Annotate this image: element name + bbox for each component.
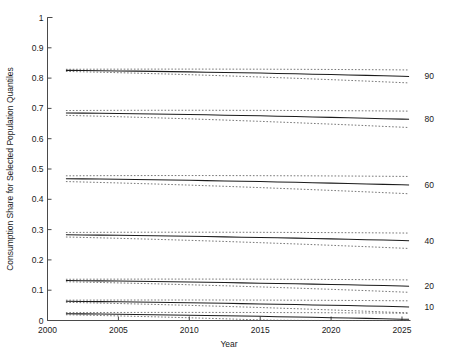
x-tick-label-2: 2010 <box>180 325 199 335</box>
series-20-line <box>66 281 409 287</box>
chart-canvas: 00.10.20.30.40.50.60.70.80.9120002005201… <box>0 0 452 362</box>
series-5-upper-band <box>66 312 409 313</box>
series-40-line <box>66 235 409 241</box>
x-tick-label-3: 2015 <box>251 325 270 335</box>
x-tick-label-0: 2000 <box>38 325 57 335</box>
series-end-label-60: 60 <box>425 180 435 190</box>
x-axis-title: Year <box>220 339 237 349</box>
series-end-label-80: 80 <box>425 114 435 124</box>
series-60-line <box>66 179 409 185</box>
series-5-line <box>66 314 409 320</box>
series-90-line <box>66 70 409 76</box>
series-20 <box>66 279 409 292</box>
x-tick-label-5: 2025 <box>393 325 412 335</box>
series-group <box>66 69 409 320</box>
series-80-line <box>66 113 409 119</box>
series-20-upper-band <box>66 279 409 280</box>
series-10-line <box>66 301 409 307</box>
series-90 <box>66 69 409 83</box>
series-end-label-90: 90 <box>425 71 435 81</box>
y-tick-label-2: 0.2 <box>32 255 44 265</box>
series-end-label-40: 40 <box>425 236 435 246</box>
series-60 <box>66 176 409 194</box>
y-tick-label-3: 0.3 <box>32 225 44 235</box>
x-tick-label-1: 2005 <box>109 325 128 335</box>
series-5 <box>66 312 409 320</box>
series-40 <box>66 232 409 248</box>
series-40-lower-band <box>66 237 409 248</box>
axis-group: 00.10.20.30.40.50.60.70.80.9120002005201… <box>32 13 412 335</box>
y-tick-label-4: 0.4 <box>32 194 44 204</box>
y-tick-label-1: 0.1 <box>32 285 44 295</box>
y-tick-label-10: 1 <box>39 13 44 23</box>
series-80 <box>66 110 409 127</box>
y-tick-label-6: 0.6 <box>32 134 44 144</box>
x-tick-label-4: 2020 <box>322 325 341 335</box>
y-tick-label-8: 0.8 <box>32 73 44 83</box>
series-80-lower-band <box>66 115 409 127</box>
y-tick-label-9: 0.9 <box>32 43 44 53</box>
series-80-upper-band <box>66 110 409 111</box>
y-tick-label-7: 0.7 <box>32 103 44 113</box>
series-end-label-20: 20 <box>425 281 435 291</box>
series-10 <box>66 300 409 313</box>
series-40-upper-band <box>66 232 409 233</box>
axis-spines <box>48 18 411 321</box>
y-axis-title: Consumption Share for Selected Populatio… <box>5 67 15 271</box>
series-end-label-10: 10 <box>425 302 435 312</box>
series-60-upper-band <box>66 176 409 177</box>
figure-container: 00.10.20.30.40.50.60.70.80.9120002005201… <box>0 0 452 362</box>
series-90-upper-band <box>66 69 409 70</box>
y-tick-label-5: 0.5 <box>32 164 44 174</box>
series-10-upper-band <box>66 300 409 301</box>
